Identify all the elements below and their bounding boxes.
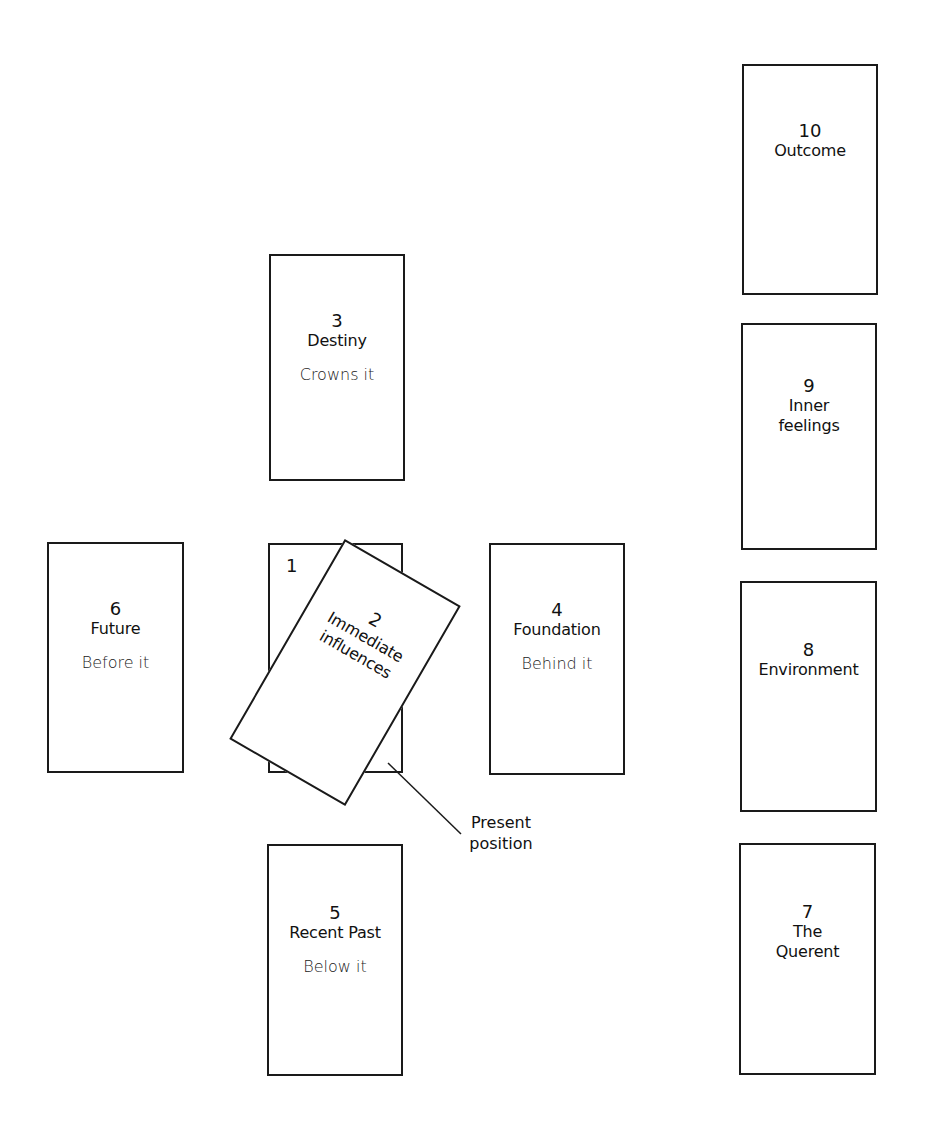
card-title-line1: The <box>741 922 874 942</box>
card-10-content: 10 Outcome <box>744 120 876 161</box>
card-7-content: 7 The Querent <box>741 901 874 962</box>
card-title: Destiny <box>271 331 403 351</box>
card-title: Outcome <box>744 141 876 161</box>
card-title: Environment <box>742 660 875 680</box>
card-number: 3 <box>271 310 403 331</box>
present-position-callout: Present position <box>458 812 544 854</box>
card-4-foundation: 4 Foundation Behind it <box>489 543 625 775</box>
card-4-content: 4 Foundation Behind it <box>491 599 623 674</box>
card-title: Future <box>49 619 182 639</box>
card-5-content: 5 Recent Past Below it <box>269 902 401 977</box>
card-3-content: 3 Destiny Crowns it <box>271 310 403 385</box>
card-2-immediate-influences: 2 Immediate influences <box>229 539 461 806</box>
card-title: Recent Past <box>269 923 401 943</box>
card-number: 10 <box>744 120 876 141</box>
card-subtitle: Behind it <box>491 654 623 674</box>
card-title: Foundation <box>491 620 623 640</box>
card-number: 1 <box>286 555 297 576</box>
card-5-recent-past: 5 Recent Past Below it <box>267 844 403 1076</box>
card-number: 4 <box>491 599 623 620</box>
card-8-content: 8 Environment <box>742 639 875 680</box>
card-subtitle: Below it <box>269 957 401 977</box>
card-6-content: 6 Future Before it <box>49 598 182 673</box>
card-subtitle: Before it <box>49 653 182 673</box>
card-10-outcome: 10 Outcome <box>742 64 878 295</box>
card-number: 6 <box>49 598 182 619</box>
card-2-content: 2 Immediate influences <box>294 578 437 696</box>
card-subtitle: Crowns it <box>271 365 403 385</box>
card-title-line2: Querent <box>741 942 874 962</box>
callout-line1: Present <box>458 812 544 833</box>
callout-line2: position <box>458 833 544 854</box>
card-number: 5 <box>269 902 401 923</box>
card-8-environment: 8 Environment <box>740 581 877 812</box>
card-number: 7 <box>741 901 874 922</box>
card-title-line1: Inner <box>743 396 875 416</box>
card-title-line2: feelings <box>743 416 875 436</box>
card-6-future: 6 Future Before it <box>47 542 184 773</box>
card-number: 9 <box>743 375 875 396</box>
card-number: 8 <box>742 639 875 660</box>
card-9-content: 9 Inner feelings <box>743 375 875 436</box>
card-3-destiny: 3 Destiny Crowns it <box>269 254 405 481</box>
card-9-inner-feelings: 9 Inner feelings <box>741 323 877 550</box>
card-7-the-querent: 7 The Querent <box>739 843 876 1075</box>
